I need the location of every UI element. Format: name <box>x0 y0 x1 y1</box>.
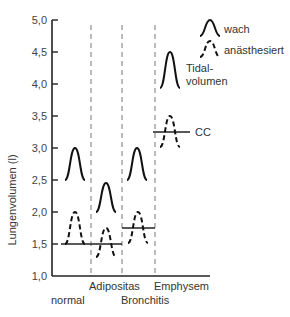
curve-normal-anaest <box>65 212 85 244</box>
cc-label: CC <box>195 126 211 138</box>
legend-solid-icon <box>200 20 220 36</box>
y-tick-label: 2,0 <box>32 206 47 218</box>
curve-adipositas-wach <box>96 183 116 212</box>
tidal-label-1: Tidal- <box>186 62 213 74</box>
legend-label-anaesthesiert: anästhesiert <box>224 44 284 56</box>
y-tick-label: 4,0 <box>32 78 47 90</box>
y-tick-label: 1,0 <box>32 270 47 282</box>
y-tick-label: 4,5 <box>32 46 47 58</box>
legend: wach anästhesiert <box>200 20 284 57</box>
y-tick-label: 3,5 <box>32 110 47 122</box>
category-separators <box>91 25 155 276</box>
legend-dashed-icon <box>200 41 220 57</box>
curve-bronchitis-wach <box>127 148 147 180</box>
y-axis-title: Lungenvolumen (l) <box>6 154 18 245</box>
category-label-emphysem: Emphysem <box>154 280 209 292</box>
category-label-bronchitis: Bronchitis <box>121 294 170 306</box>
category-label-adipositas: Adipositas <box>89 280 140 292</box>
y-tick-label: 1,5 <box>32 238 47 250</box>
y-ticks <box>52 20 58 244</box>
chart: 5,0 4,5 4,0 3,5 3,0 2,5 2,0 1,5 1,0 Lung… <box>0 0 290 317</box>
y-tick-label: 3,0 <box>32 142 47 154</box>
category-label-normal: normal <box>51 294 85 306</box>
curve-emphysem-wach <box>160 52 180 88</box>
y-tick-label: 2,5 <box>32 174 47 186</box>
y-tick-label: 5,0 <box>32 14 47 26</box>
tidal-label-2: volumen <box>186 75 228 87</box>
curve-normal-wach <box>65 148 85 180</box>
curve-adipositas-anaest <box>96 228 116 257</box>
legend-label-wach: wach <box>223 23 250 35</box>
